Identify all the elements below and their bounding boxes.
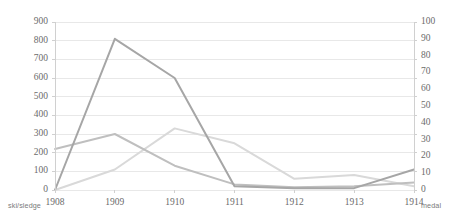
series-layer: [55, 39, 414, 190]
axis-lines: [52, 22, 417, 193]
y-axis-left-tick-label: 400: [0, 110, 48, 120]
y-axis-right-tick-label: 20: [421, 151, 461, 161]
x-axis-tick-label: 1913: [329, 198, 379, 208]
y-axis-right-tick-label: 30: [421, 135, 461, 145]
line-chart: 9008007006005004003002001000 10090807060…: [0, 0, 466, 223]
y-axis-right-tick-label: 80: [421, 51, 461, 61]
y-axis-right-tick-label: 70: [421, 67, 461, 77]
series-line-series-2: [55, 134, 414, 187]
y-axis-left-tick-label: 0: [0, 185, 48, 195]
y-axis-left-tick-label: 600: [0, 73, 48, 83]
y-axis-left-tick-label: 100: [0, 166, 48, 176]
x-axis-tick-label: 1910: [150, 198, 200, 208]
x-axis-tick-label: 1912: [269, 198, 319, 208]
y-axis-right-tick-label: 40: [421, 118, 461, 128]
x-axis-tick-label: 1911: [210, 198, 260, 208]
chart-canvas: [0, 0, 466, 223]
x-axis-tick-label: 1909: [90, 198, 140, 208]
y-axis-left-tick-label: 700: [0, 54, 48, 64]
y-axis-left-tick-label: 200: [0, 148, 48, 158]
y-axis-right-tick-label: 0: [421, 185, 461, 195]
y-axis-left-tick-label: 500: [0, 92, 48, 102]
series-line-series-1: [55, 39, 414, 190]
y-axis-right-tick-label: 100: [421, 17, 461, 27]
y-axis-left-tick-label: 800: [0, 36, 48, 46]
series-line-series-3: [55, 128, 414, 190]
y-axis-left-tick-label: 300: [0, 129, 48, 139]
y-axis-right-tick-label: 60: [421, 84, 461, 94]
x-axis-title-right: medal: [421, 202, 441, 209]
y-axis-right-tick-label: 10: [421, 168, 461, 178]
y-axis-left-tick-label: 900: [0, 17, 48, 27]
x-axis-title-left: ski/sledge: [8, 202, 41, 209]
y-axis-right-tick-label: 90: [421, 34, 461, 44]
y-axis-right-tick-label: 50: [421, 101, 461, 111]
gridlines: [55, 22, 414, 190]
